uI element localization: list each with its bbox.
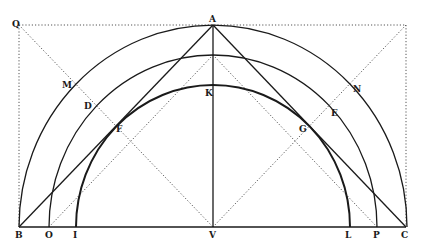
label-M: M (62, 80, 72, 90)
label-F: F (116, 124, 123, 134)
label-L: L (345, 230, 352, 240)
label-N: N (353, 84, 361, 94)
label-A: A (208, 14, 217, 24)
label-P: P (373, 230, 380, 240)
label-O: O (45, 230, 53, 240)
label-C: C (401, 230, 408, 240)
label-G: G (299, 124, 307, 134)
label-E: E (331, 108, 338, 118)
label-Q: Q (12, 19, 20, 29)
label-I: I (73, 230, 77, 240)
label-K: K (205, 88, 214, 98)
label-B: B (15, 230, 23, 240)
label-D: D (84, 101, 92, 111)
label-V: V (208, 230, 217, 240)
geometric-diagram: Q A M N D E K F G B O I V L P C (0, 0, 422, 250)
